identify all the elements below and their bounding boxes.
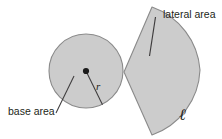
diagram-canvas: base area lateral area r ℓ: [0, 0, 222, 139]
lateral-area-label: lateral area: [163, 8, 216, 20]
center-point-dot: [83, 68, 89, 74]
radius-symbol-label: r: [96, 80, 101, 92]
slant-height-symbol-label: ℓ: [179, 106, 186, 123]
lateral-area-sector: [124, 7, 200, 135]
base-area-label: base area: [8, 105, 55, 117]
cone-net-diagram: base area lateral area r ℓ: [0, 0, 222, 139]
